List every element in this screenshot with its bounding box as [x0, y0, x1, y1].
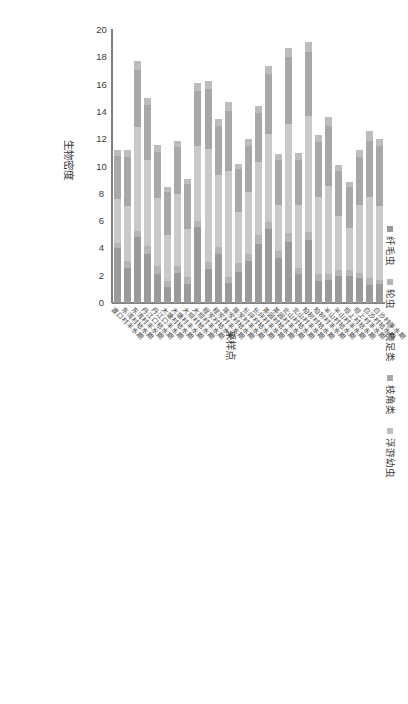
bar-segment — [174, 147, 181, 193]
bar-segment — [305, 240, 312, 303]
bar-segment — [205, 89, 212, 149]
bar-segment — [285, 242, 292, 303]
bar-segment — [356, 157, 363, 205]
bar-row[interactable] — [255, 106, 262, 303]
bar-segment — [305, 42, 312, 52]
bar-segment — [295, 153, 302, 160]
bar-row[interactable] — [154, 145, 161, 303]
bar-segment — [255, 113, 262, 162]
bar-segment — [144, 246, 151, 254]
value-tick-label: 16 — [89, 78, 115, 89]
legend-item-label: 浮游幼虫 — [386, 438, 396, 478]
legend-item-1[interactable]: 纤毛虫 — [386, 226, 396, 266]
bar-segment — [356, 278, 363, 303]
bar-segment — [305, 232, 312, 240]
bar-row[interactable] — [346, 182, 353, 303]
bar-segment — [305, 116, 312, 232]
bar-row[interactable] — [366, 131, 373, 303]
legend-swatch-icon — [387, 375, 393, 381]
bar-segment — [215, 175, 222, 247]
bar-row[interactable] — [325, 117, 332, 303]
bar-row[interactable] — [245, 139, 252, 303]
bar-row[interactable] — [134, 61, 141, 303]
legend-swatch-icon — [387, 226, 393, 232]
bar-segment — [174, 273, 181, 303]
bar-segment — [174, 141, 181, 148]
bar-row[interactable] — [295, 153, 302, 303]
bar-segment — [114, 156, 121, 200]
bar-row[interactable] — [305, 42, 312, 303]
bar-row[interactable] — [174, 141, 181, 303]
bar-segment — [366, 285, 373, 303]
bar-segment — [255, 235, 262, 245]
bar-segment — [315, 274, 322, 281]
value-axis-ticks: 02468101214161820 — [81, 0, 107, 303]
value-axis-title: 生物密度 — [62, 120, 77, 200]
bar-segment — [245, 139, 252, 146]
bar-segment — [265, 222, 272, 229]
bar-segment — [336, 171, 343, 216]
bar-segment — [134, 61, 141, 69]
bar-series-container — [113, 0, 385, 303]
bar-row[interactable] — [235, 164, 242, 303]
bar-segment — [215, 119, 222, 126]
bar-row[interactable] — [114, 150, 121, 303]
bar-segment — [346, 228, 353, 270]
legend-item-5[interactable]: 浮游幼虫 — [386, 428, 396, 478]
bar-row[interactable] — [215, 119, 222, 303]
bar-segment — [315, 135, 322, 142]
bar-segment — [124, 157, 131, 206]
legend-item-label: 轮虫 — [386, 289, 396, 309]
bar-segment — [124, 206, 131, 261]
bar-segment — [235, 263, 242, 271]
bar-segment — [315, 197, 322, 275]
bar-segment — [194, 83, 201, 91]
bar-segment — [134, 70, 141, 127]
bar-row[interactable] — [285, 48, 292, 303]
bar-row[interactable] — [225, 102, 232, 303]
bar-segment — [255, 244, 262, 303]
bar-row[interactable] — [164, 187, 171, 303]
bar-segment — [245, 254, 252, 261]
bar-row[interactable] — [184, 179, 191, 303]
bar-segment — [346, 187, 353, 228]
bar-segment — [376, 146, 383, 206]
legend-swatch-icon — [387, 428, 393, 434]
bar-segment — [124, 150, 131, 157]
bar-segment — [144, 160, 151, 246]
bar-segment — [366, 141, 373, 197]
value-tick-label: 18 — [89, 51, 115, 62]
bar-row[interactable] — [205, 81, 212, 303]
bar-row[interactable] — [315, 135, 322, 303]
bar-segment — [205, 269, 212, 303]
bar-segment — [164, 287, 171, 303]
bar-segment — [245, 261, 252, 303]
bar-segment — [275, 160, 282, 205]
bar-row[interactable] — [275, 154, 282, 303]
bar-segment — [295, 205, 302, 268]
bar-segment — [356, 205, 363, 273]
legend-item-2[interactable]: 轮虫 — [386, 279, 396, 309]
legend-item-4[interactable]: 枝角类 — [386, 375, 396, 415]
bar-segment — [184, 284, 191, 303]
bar-segment — [154, 266, 161, 274]
bar-segment — [194, 146, 201, 221]
bar-row[interactable] — [336, 165, 343, 303]
bar-segment — [124, 261, 131, 268]
bar-segment — [315, 142, 322, 197]
bar-segment — [376, 139, 383, 146]
bar-segment — [325, 280, 332, 303]
bar-row[interactable] — [194, 83, 201, 303]
legend-item-label: 枝角类 — [386, 385, 396, 415]
bar-row[interactable] — [376, 139, 383, 303]
bar-segment — [154, 274, 161, 303]
category-axis-labels: 白沙村丰水期白沙村枯水期坝上村丰水期坝上村枯水期半山村丰水期半山村枯水期柏树村丰… — [105, 304, 385, 424]
bar-segment — [376, 206, 383, 280]
bar-row[interactable] — [144, 98, 151, 303]
bar-segment — [144, 98, 151, 105]
bar-segment — [235, 272, 242, 303]
bar-row[interactable] — [356, 150, 363, 303]
bar-row[interactable] — [124, 150, 131, 303]
bar-segment — [265, 229, 272, 303]
bar-row[interactable] — [265, 66, 272, 304]
